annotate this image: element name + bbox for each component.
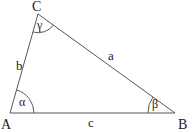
side-label-a: a [108,48,114,63]
side-label-c: c [88,115,94,130]
vertex-label-a: A [1,117,12,132]
angle-label-beta: β [152,97,158,111]
triangle-diagram: C A B a b c α β γ [0,0,193,132]
angle-label-gamma: γ [36,18,43,32]
angle-label-alpha: α [19,95,26,109]
vertex-label-b: B [178,117,187,132]
vertex-label-c: C [32,0,41,14]
side-label-b: b [16,58,23,73]
